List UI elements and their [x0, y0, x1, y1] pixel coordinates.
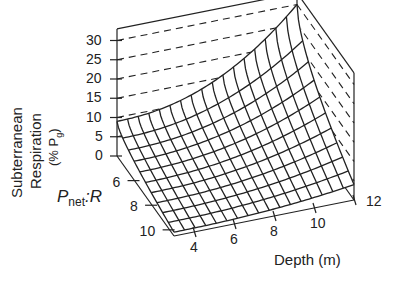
z-label-line3: (% Pg) — [46, 128, 64, 166]
z-tick-label: 5 — [95, 129, 103, 143]
z-tick-label: 15 — [86, 90, 102, 104]
pnet-r-tick-label: 8 — [130, 199, 138, 213]
x-axis-label: Depth (m) — [274, 252, 341, 267]
z-label-line2: Respiration — [27, 113, 44, 189]
back-wall-top — [117, 0, 297, 29]
pnet-r-tick-label: 6 — [113, 175, 121, 189]
depth-tick-label: 8 — [270, 224, 278, 238]
depth-tick-label: 10 — [310, 216, 326, 230]
z-tick-label: 25 — [86, 52, 102, 66]
z-tick-label: 10 — [86, 110, 102, 124]
surface-fill — [117, 5, 354, 233]
z-tick-label: 0 — [95, 148, 103, 162]
pnet-r-tick-label: 10 — [140, 224, 156, 238]
y-axis-label: Pnet:R — [57, 188, 102, 208]
z-tick-label: 20 — [86, 71, 102, 85]
depth-tick-label: 12 — [366, 194, 382, 208]
z-label-line1: Subterranean — [8, 107, 25, 198]
z-axis-label: Subterranean Respiration (% Pg) — [8, 48, 68, 198]
z-tick-label: 30 — [86, 33, 102, 47]
depth-tick-label: 4 — [190, 240, 198, 254]
depth-tick-label: 6 — [230, 232, 238, 246]
